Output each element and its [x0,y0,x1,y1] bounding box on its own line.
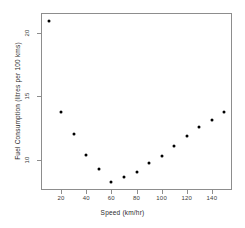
x-axis-tick-label: 60 [108,195,115,201]
data-point [173,144,176,147]
data-point [148,162,151,165]
y-axis-tick-label: 15 [24,93,30,100]
x-axis-tick-label: 100 [156,195,167,201]
y-axis-tick [37,96,41,97]
x-axis-tick [137,190,138,194]
data-point [110,181,113,184]
data-point [223,110,226,113]
x-axis-tick-label: 80 [133,195,140,201]
data-point [47,19,50,22]
y-axis-tick [37,160,41,161]
chart-figure: 20406080100120140101520 Speed (km/hr) Fu… [0,0,245,228]
data-point [198,125,201,128]
x-axis-tick-label: 120 [181,195,192,201]
data-point [185,134,188,137]
data-point [135,171,138,174]
y-axis-tick-label: 20 [24,30,30,37]
x-axis-tick-label: 140 [207,195,218,201]
x-axis-tick [61,190,62,194]
x-axis-tick [212,190,213,194]
data-point [160,154,163,157]
data-point [85,153,88,156]
x-axis-tick [111,190,112,194]
data-point [60,110,63,113]
data-point [122,176,125,179]
data-point [97,167,100,170]
scatter-plot-area [41,13,232,190]
x-axis-title: Speed (km/hr) [0,209,245,216]
data-point [210,119,213,122]
x-axis-tick [162,190,163,194]
data-point [72,133,75,136]
y-axis-tick [37,33,41,34]
x-axis-tick-label: 40 [83,195,90,201]
x-axis-tick-label: 20 [58,195,65,201]
y-axis-tick-label: 10 [24,156,30,163]
x-axis-tick [187,190,188,194]
y-axis-title: Fuel Consumption (litres per 100 kms) [14,42,21,160]
x-axis-tick [86,190,87,194]
